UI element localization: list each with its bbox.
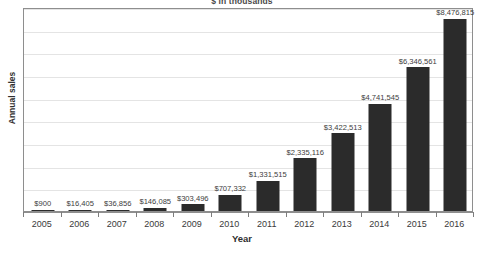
bar-value-label: $4,741,545	[361, 93, 399, 102]
bar[interactable]	[294, 158, 317, 211]
bar-slot: $36,856	[99, 9, 137, 211]
bar-series: $900$16,405$36,856$146,085$303,496$707,3…	[24, 9, 472, 211]
plot-area: $900$16,405$36,856$146,085$303,496$707,3…	[23, 8, 473, 212]
x-axis-tick-label: 2006	[69, 219, 89, 229]
x-axis-tick-label: 2005	[32, 219, 52, 229]
bar-value-label: $6,346,561	[399, 57, 437, 66]
x-axis-tick	[61, 212, 62, 217]
bar-value-label: $16,405	[67, 199, 94, 208]
bar[interactable]	[444, 19, 467, 211]
x-axis-tick	[248, 212, 249, 217]
x-axis-title: Year	[0, 233, 484, 244]
x-axis-tick-label: 2008	[144, 219, 164, 229]
x-axis-tick	[473, 212, 474, 217]
bar-slot: $8,476,815	[437, 9, 475, 211]
x-axis-tick	[323, 212, 324, 217]
bar-value-label: $146,085	[139, 197, 171, 206]
bar[interactable]	[219, 195, 242, 211]
x-axis-tick	[173, 212, 174, 217]
bar[interactable]	[256, 181, 279, 211]
x-axis-tick	[23, 212, 24, 217]
bar-slot: $303,496	[174, 9, 212, 211]
x-axis-tick-label: 2014	[369, 219, 389, 229]
bar-value-label: $8,476,815	[436, 8, 474, 17]
chart-title: $ in thousands	[0, 0, 484, 6]
bar[interactable]	[106, 210, 129, 212]
bar-slot: $146,085	[137, 9, 175, 211]
x-axis-tick	[98, 212, 99, 217]
x-axis-tick	[436, 212, 437, 217]
bar-value-label: $3,422,513	[324, 123, 362, 132]
x-axis-tick-label: 2011	[257, 219, 276, 229]
bar-chart: $ in thousands Annual sales $900$16,405$…	[0, 0, 484, 256]
x-axis-tick	[136, 212, 137, 217]
bar[interactable]	[69, 210, 92, 212]
x-axis-tick	[286, 212, 287, 217]
bar-slot: $900	[24, 9, 62, 211]
bar-value-label: $1,331,515	[249, 170, 287, 179]
bar-slot: $2,335,116	[287, 9, 325, 211]
bar[interactable]	[331, 133, 354, 211]
bar-value-label: $900	[34, 199, 51, 208]
bar-value-label: $36,856	[104, 199, 131, 208]
x-axis-tick	[398, 212, 399, 217]
x-axis-tick-label: 2016	[444, 219, 464, 229]
x-axis-tick-label: 2010	[219, 219, 239, 229]
bar-value-label: $303,496	[177, 194, 209, 203]
bar-slot: $1,331,515	[249, 9, 287, 211]
x-axis-tick-label: 2009	[182, 219, 202, 229]
bar-slot: $4,741,545	[362, 9, 400, 211]
bar[interactable]	[181, 204, 204, 211]
x-axis-tick-label: 2013	[332, 219, 352, 229]
x-axis-tick-label: 2015	[407, 219, 427, 229]
bar-value-label: $2,335,116	[287, 148, 324, 157]
bar-slot: $707,332	[212, 9, 250, 211]
x-axis-tick-label: 2007	[107, 219, 127, 229]
bar[interactable]	[369, 104, 392, 211]
bar[interactable]	[144, 208, 167, 211]
bar-slot: $6,346,561	[399, 9, 437, 211]
bar-value-label: $707,332	[214, 184, 246, 193]
x-axis-tick-label: 2012	[294, 219, 314, 229]
bar[interactable]	[31, 210, 54, 212]
bar-slot: $3,422,513	[324, 9, 362, 211]
x-axis-tick	[211, 212, 212, 217]
x-axis-tick	[361, 212, 362, 217]
bar[interactable]	[406, 67, 429, 211]
bar-slot: $16,405	[62, 9, 100, 211]
y-axis-title: Annual sales	[7, 58, 17, 138]
